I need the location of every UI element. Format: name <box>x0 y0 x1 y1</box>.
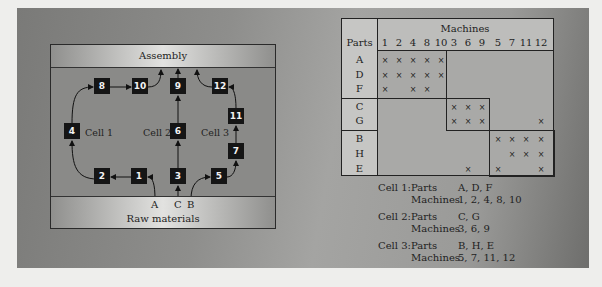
legend-parts: A, D, F <box>458 182 493 193</box>
part-row-G: G <box>342 115 377 126</box>
cell-2-label: Cell 2 <box>143 127 171 138</box>
legend-cell: Cell 1: <box>378 182 411 193</box>
machine-5: 5 <box>211 168 227 184</box>
raw-materials-band: A C B Raw materials <box>51 196 275 228</box>
cell-3-block <box>489 130 555 177</box>
machine-column-11: 11 <box>519 37 533 48</box>
machine-12: 12 <box>212 78 228 94</box>
legend-machines-label: Machines <box>411 223 460 234</box>
legend-machines-label: Machines <box>411 194 460 205</box>
machine-column-4: 4 <box>406 37 420 48</box>
part-machine-matrix: Machines Parts 124810369571112 A×××××D××… <box>341 18 554 176</box>
cell-1-block <box>377 50 447 99</box>
parts-header: Parts <box>342 37 377 48</box>
legend-parts: C, G <box>458 211 480 222</box>
machine-column-5: 5 <box>491 37 505 48</box>
input-label-a: A <box>151 199 158 210</box>
legend-parts-label: Parts <box>411 240 437 251</box>
machine-10: 10 <box>132 78 148 94</box>
machine-1: 1 <box>131 168 147 184</box>
machine-8: 8 <box>94 78 110 94</box>
input-label-b: B <box>187 199 194 210</box>
machine-6: 6 <box>170 123 186 139</box>
input-label-c: C <box>174 199 182 210</box>
assignment-mark: × <box>536 117 546 126</box>
machine-2: 2 <box>94 168 110 184</box>
machine-column-3: 3 <box>447 37 461 48</box>
legend-cell: Cell 2: <box>378 211 411 222</box>
group-divider-1 <box>342 98 377 99</box>
legend-machines: 1, 2, 4, 8, 10 <box>458 194 522 205</box>
cell-2-block <box>446 98 490 131</box>
machines-title: Machines <box>377 23 553 34</box>
part-row-A: A <box>342 54 377 65</box>
machine-column-12: 12 <box>534 37 548 48</box>
machine-column-9: 9 <box>475 37 489 48</box>
raw-materials-label: Raw materials <box>51 213 275 224</box>
machine-4: 4 <box>64 123 80 139</box>
machine-column-1: 1 <box>378 37 392 48</box>
machine-3: 3 <box>170 168 186 184</box>
part-row-F: F <box>342 83 377 94</box>
legend-machines: 5, 7, 11, 12 <box>458 252 515 263</box>
legend-parts: B, H, E <box>458 240 494 251</box>
machine-column-10: 10 <box>434 37 448 48</box>
part-row-H: H <box>342 148 377 159</box>
machine-column-2: 2 <box>392 37 406 48</box>
machine-9: 9 <box>170 78 186 94</box>
legend-parts-label: Parts <box>411 182 437 193</box>
legend-machines: 3, 6, 9 <box>458 223 490 234</box>
machine-11: 11 <box>228 108 244 124</box>
part-row-E: E <box>342 163 377 174</box>
cell-3-label: Cell 3 <box>201 127 229 138</box>
legend-parts-label: Parts <box>411 211 437 222</box>
legend-machines-label: Machines <box>411 252 460 263</box>
machine-7: 7 <box>228 143 244 159</box>
group-divider-2 <box>342 130 377 131</box>
part-row-D: D <box>342 69 377 80</box>
cell-layout-diagram: Assembly 810912461172 <box>50 44 276 229</box>
cell-1-label: Cell 1 <box>85 127 113 138</box>
legend-cell: Cell 3: <box>378 240 411 251</box>
machine-column-6: 6 <box>461 37 475 48</box>
machine-column-7: 7 <box>505 37 519 48</box>
assignment-mark: × <box>463 165 473 174</box>
part-row-B: B <box>342 133 377 144</box>
machine-column-8: 8 <box>420 37 434 48</box>
part-row-C: C <box>342 101 377 112</box>
